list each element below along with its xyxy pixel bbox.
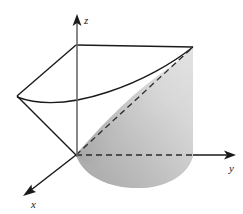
z-axis-label: z bbox=[83, 14, 89, 26]
x-axis-arrow-icon bbox=[23, 185, 36, 197]
top-plane-left-edge bbox=[17, 45, 76, 96]
x-axis bbox=[31, 155, 76, 190]
plane-lower-left-edge bbox=[17, 96, 76, 155]
figure-container: z y x bbox=[0, 0, 243, 214]
y-axis-label: y bbox=[228, 162, 234, 174]
x-axis-label: x bbox=[30, 198, 36, 210]
surface-diagram: z y x bbox=[0, 0, 243, 214]
top-plane-front-edge bbox=[76, 45, 193, 47]
